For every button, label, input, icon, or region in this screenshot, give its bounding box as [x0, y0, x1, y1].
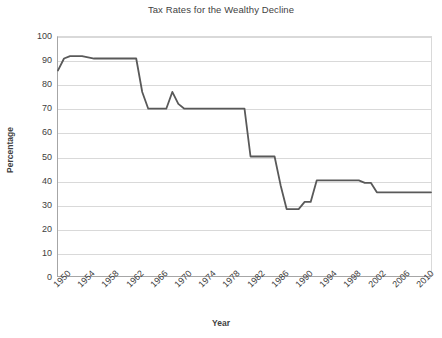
y-tick-label: 70 — [2, 103, 52, 113]
y-tick-label: 10 — [2, 248, 52, 258]
y-axis-ticks: 1009080706050403020100 — [0, 30, 52, 285]
x-axis-title: Year — [0, 318, 442, 328]
y-tick-label: 40 — [2, 176, 52, 186]
y-tick-label: 80 — [2, 79, 52, 89]
chart-title: Tax Rates for the Wealthy Decline — [0, 4, 442, 15]
chart-container: Tax Rates for the Wealthy Decline Percen… — [0, 0, 442, 338]
y-tick-label: 50 — [2, 152, 52, 162]
y-tick-label: 60 — [2, 127, 52, 137]
y-tick-label: 30 — [2, 200, 52, 210]
y-tick-label: 20 — [2, 224, 52, 234]
x-axis-ticks: 1950195419581962196619701974197819821986… — [0, 279, 442, 319]
y-tick-label: 100 — [2, 31, 52, 41]
plot-area — [57, 36, 432, 277]
x-tick-label: 1950 — [51, 268, 72, 289]
series-line-chart — [58, 37, 431, 276]
series-polyline — [58, 56, 431, 209]
y-tick-label: 90 — [2, 55, 52, 65]
